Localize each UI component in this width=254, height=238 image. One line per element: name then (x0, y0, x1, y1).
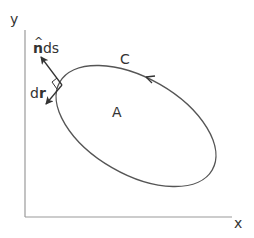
normal-vector-arrow (41, 57, 62, 85)
curve-c (36, 40, 236, 211)
tangent-vector-arrow (46, 85, 62, 104)
normal-ds: ds (43, 40, 59, 56)
x-axis-label: x (234, 215, 242, 231)
tangent-d: d (30, 85, 39, 101)
tangent-label: dr (30, 85, 46, 101)
normal-label: ^ nds (33, 35, 59, 56)
y-axis-label: y (10, 11, 18, 27)
diagram: y x C A ^ nds dr (0, 0, 254, 238)
diagram-canvas: y x C A ^ nds dr (0, 0, 254, 238)
normal-n: n (33, 40, 43, 56)
tangent-r: r (39, 85, 46, 101)
curve-label: C (120, 51, 130, 67)
region-label: A (112, 104, 122, 120)
svg-text:nds: nds (33, 40, 59, 56)
right-angle-marker (52, 78, 57, 89)
